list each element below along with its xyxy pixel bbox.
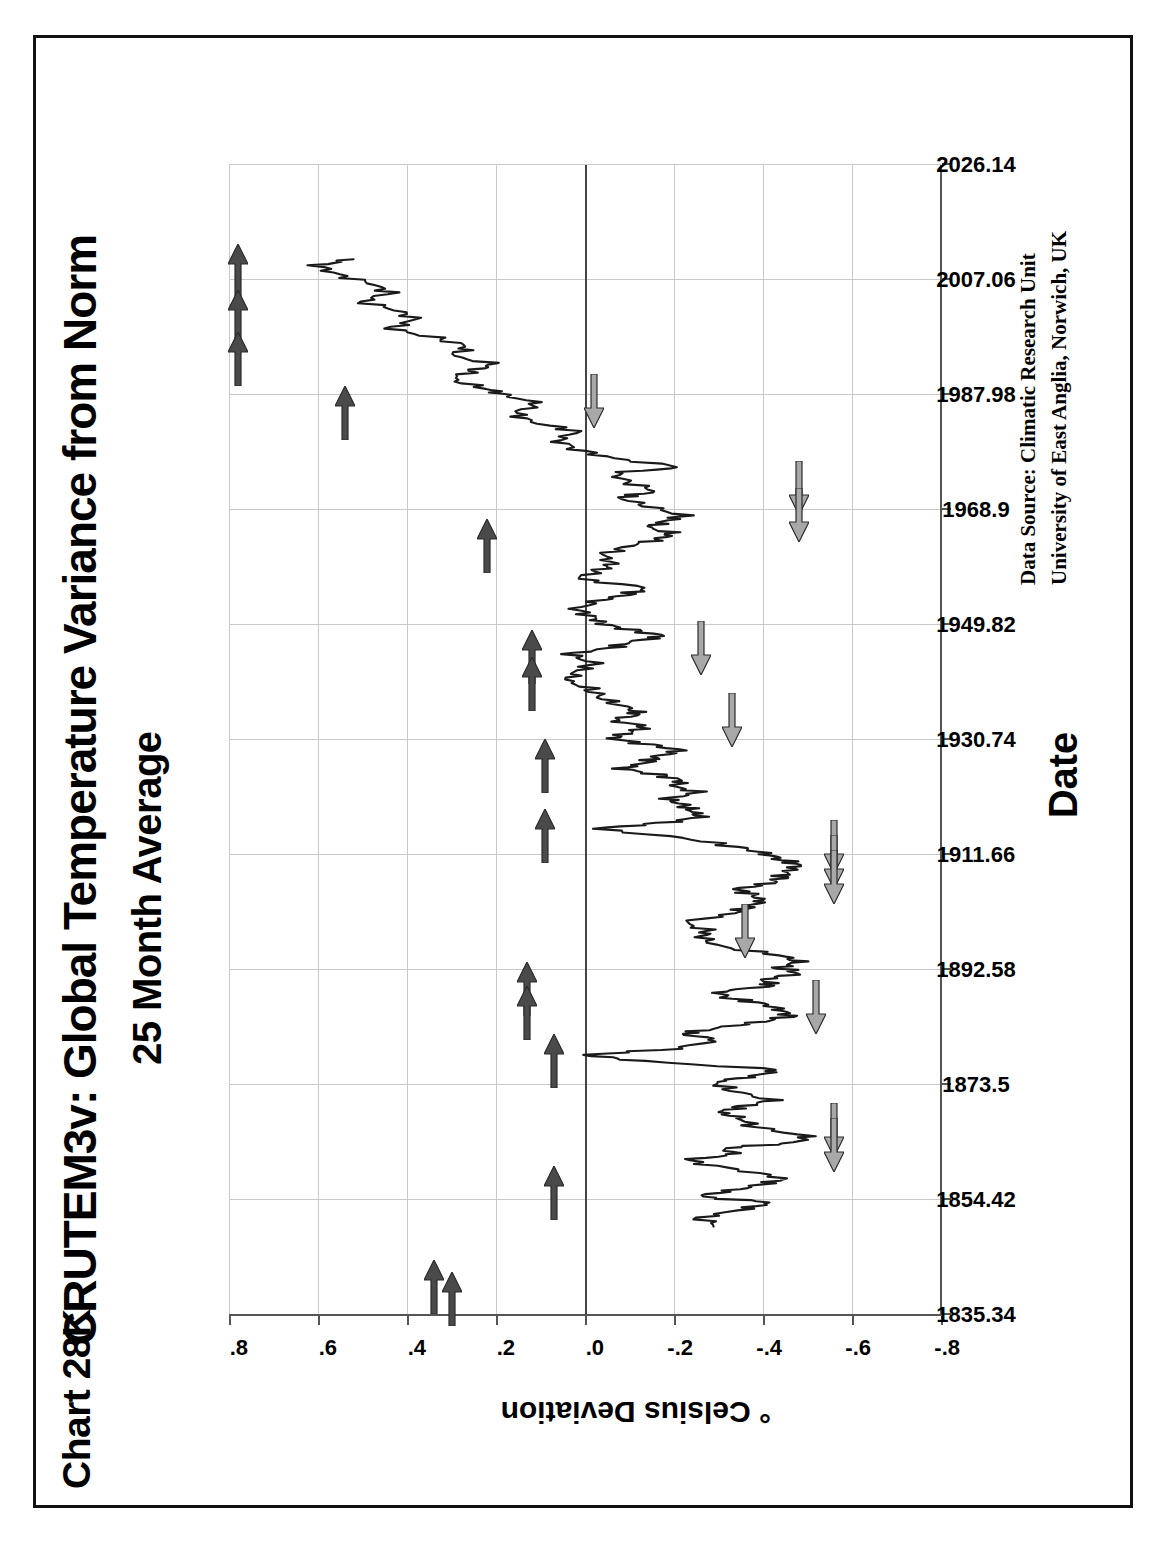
- x-axis-tick-label: 1892.58: [936, 957, 1016, 983]
- x-axis-tick-label: 1873.5: [942, 1072, 1009, 1098]
- warm-peak-arrow-icon: [544, 1167, 564, 1221]
- y-axis-tick: [407, 1316, 409, 1325]
- warm-peak-arrow-icon: [544, 1034, 564, 1088]
- cold-trough-arrow-icon: [824, 1118, 844, 1172]
- x-axis-tick-label: 1968.9: [942, 497, 1009, 523]
- y-axis-tick: [763, 1316, 765, 1325]
- warm-peak-arrow-icon: [522, 657, 542, 711]
- y-axis-tick: [585, 1316, 587, 1325]
- cold-trough-arrow-icon: [722, 693, 742, 747]
- y-axis-tick-label: -.6: [833, 1335, 871, 1361]
- y-axis-tick: [318, 1316, 320, 1325]
- warm-peak-arrow-icon: [442, 1272, 462, 1326]
- cold-trough-arrow-icon: [584, 374, 604, 428]
- y-axis-tick-label: .8: [210, 1335, 248, 1361]
- y-axis-tick-label: -.8: [922, 1335, 960, 1361]
- y-axis-title: ° Celsius Deviation: [501, 1395, 771, 1429]
- x-axis-tick-label: 1911.66: [937, 842, 1015, 868]
- warm-peak-arrow-icon: [477, 519, 497, 573]
- warm-peak-arrow-icon: [535, 809, 555, 863]
- y-axis-tick-label: .0: [566, 1335, 604, 1361]
- cold-trough-arrow-icon: [691, 621, 711, 675]
- page-border: Chart 28K CRUTEM3v: Global Temperature V…: [33, 35, 1133, 1508]
- rotated-chart-wrapper: Chart 28K CRUTEM3v: Global Temperature V…: [36, 38, 1136, 1511]
- y-axis-tick: [674, 1316, 676, 1325]
- y-axis-tick: [852, 1316, 854, 1325]
- warm-peak-arrow-icon: [535, 739, 555, 793]
- cold-trough-arrow-icon: [806, 980, 826, 1034]
- x-axis-tick-label: 1949.82: [936, 612, 1016, 638]
- x-axis-tick-label: 1987.98: [936, 382, 1016, 408]
- warm-peak-arrow-icon: [335, 386, 355, 440]
- data-source-line-1: Data Source: Climatic Research Unit: [1016, 253, 1042, 585]
- x-axis-tick-label: 2007.06: [936, 267, 1016, 293]
- cold-trough-arrow-icon: [824, 850, 844, 904]
- page-canvas: Chart 28K CRUTEM3v: Global Temperature V…: [0, 0, 1167, 1549]
- warm-peak-arrow-icon: [228, 332, 248, 386]
- y-axis-tick-label: .4: [388, 1335, 426, 1361]
- plot-area: [229, 165, 941, 1315]
- warm-peak-arrow-icon: [517, 986, 537, 1040]
- y-axis-tick-label: .6: [299, 1335, 337, 1361]
- chart-subtitle: 25 Month Average: [125, 731, 170, 1065]
- cold-trough-arrow-icon: [789, 488, 809, 542]
- y-axis-tick-label: .2: [477, 1335, 515, 1361]
- y-axis-tick-label: -.2: [655, 1335, 693, 1361]
- x-axis-tick-label: 1835.34: [936, 1302, 1016, 1328]
- x-axis-tick-label: 1930.74: [936, 727, 1016, 753]
- y-axis-tick-label: -.4: [744, 1335, 782, 1361]
- y-axis-tick: [496, 1316, 498, 1325]
- cold-trough-arrow-icon: [735, 904, 755, 958]
- data-source-line-2: University of East Anglia, Norwich, UK: [1047, 231, 1073, 585]
- chart-title: CRUTEM3v: Global Temperature Variance fr…: [53, 235, 107, 1345]
- chart-container: Chart 28K CRUTEM3v: Global Temperature V…: [51, 55, 1121, 1495]
- x-axis-tick-label: 2026.14: [936, 152, 1016, 178]
- x-axis-tick-label: 1854.42: [936, 1187, 1016, 1213]
- y-axis-tick: [229, 1316, 231, 1325]
